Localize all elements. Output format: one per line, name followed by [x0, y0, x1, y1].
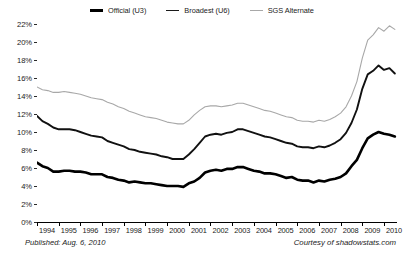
- x-axis-tick-label: 2000: [169, 226, 185, 235]
- y-axis-tick: 12%: [17, 109, 37, 119]
- x-axis-tick-mark: [102, 222, 103, 226]
- legend-item-sgs-alternate: SGS Alternate: [250, 6, 314, 15]
- legend-item-broadest-u6: Broadest (U6): [166, 6, 229, 15]
- series-line: [37, 132, 395, 187]
- x-axis-tick-label: 1995: [61, 226, 77, 235]
- x-axis-tick-label: 2003: [234, 226, 250, 235]
- y-axis-tick: 22%: [17, 19, 37, 29]
- y-axis-tick: 4%: [21, 181, 37, 191]
- y-axis-tick-label: 18%: [17, 56, 32, 65]
- x-axis-tick-mark: [145, 222, 146, 226]
- x-axis-tick-mark: [124, 222, 125, 226]
- footer: Published: Aug. 6, 2010 Courtesy of shad…: [0, 238, 404, 253]
- y-axis-tick-label: 0%: [21, 218, 32, 227]
- x-axis-tick-mark: [384, 222, 385, 226]
- x-axis-tick-label: 2008: [343, 226, 359, 235]
- y-axis-tick-label: 4%: [21, 182, 32, 191]
- x-axis-tick-label: 2001: [191, 226, 207, 235]
- x-axis-tick-label: 2010: [386, 226, 402, 235]
- y-axis-tick: 14%: [17, 91, 37, 101]
- x-axis-tick-mark: [167, 222, 168, 226]
- footer-published-date: Published: Aug. 6, 2010: [25, 238, 105, 247]
- x-axis-tick-label: 2006: [299, 226, 315, 235]
- footer-courtesy-credit: Courtesy of shadowstats.com: [294, 238, 396, 247]
- plot-area: [37, 24, 397, 222]
- x-axis-tick-mark: [210, 222, 211, 226]
- x-axis-tick-label: 2009: [364, 226, 380, 235]
- y-axis-tick: 0%: [21, 217, 37, 227]
- y-axis-tick-label: 14%: [17, 92, 32, 101]
- x-axis-tick-mark: [37, 222, 38, 226]
- x-axis-tick-label: 1999: [148, 226, 164, 235]
- legend-label-broadest-u6: Broadest (U6): [184, 6, 229, 15]
- x-axis-tick-mark: [341, 222, 342, 226]
- x-axis-tick-mark: [276, 222, 277, 226]
- y-axis-tick: 6%: [21, 163, 37, 173]
- y-axis-tick: 18%: [17, 55, 37, 65]
- x-axis-tick-mark: [59, 222, 60, 226]
- x-axis-tick-label: 1994: [39, 226, 55, 235]
- y-axis-tick: 20%: [17, 37, 37, 47]
- x-axis-tick-mark: [362, 222, 363, 226]
- x-axis-tick-label: 2002: [213, 226, 229, 235]
- chart-screenshot: Official (U3) Broadest (U6) SGS Alternat…: [0, 0, 404, 253]
- x-axis-tick-label: 2004: [256, 226, 272, 235]
- y-axis-tick: 16%: [17, 73, 37, 83]
- x-axis-tick-label: 2005: [278, 226, 294, 235]
- x-axis-tick-label: 2007: [321, 226, 337, 235]
- x-axis-tick-mark: [254, 222, 255, 226]
- y-axis-tick: 10%: [17, 127, 37, 137]
- x-axis-tick-mark: [319, 222, 320, 226]
- y-axis-tick-label: 20%: [17, 38, 32, 47]
- x-axis-tick-mark: [232, 222, 233, 226]
- series-line: [37, 26, 395, 124]
- x-axis-labels: 1994199519961997199819992000200120022003…: [37, 226, 397, 238]
- chart-lines: [37, 24, 397, 222]
- x-axis-tick-label: 1996: [82, 226, 98, 235]
- y-axis: 22%20%18%16%14%12%10%8%6%4%2%0%: [0, 24, 37, 222]
- line-swatch-u6-icon: [166, 10, 179, 12]
- x-axis-tick-mark: [297, 222, 298, 226]
- chart-legend: Official (U3) Broadest (U6) SGS Alternat…: [0, 6, 404, 15]
- y-axis-tick-label: 8%: [21, 146, 32, 155]
- x-axis-tick-mark: [189, 222, 190, 226]
- y-axis-tick-label: 6%: [21, 164, 32, 173]
- y-axis-tick-label: 10%: [17, 128, 32, 137]
- line-swatch-u3-icon: [90, 9, 103, 12]
- y-axis-tick: 2%: [21, 199, 37, 209]
- legend-item-official-u3: Official (U3): [90, 6, 146, 15]
- x-axis-tick-label: 1998: [126, 226, 142, 235]
- legend-label-official-u3: Official (U3): [108, 6, 146, 15]
- x-axis-tick-label: 1997: [104, 226, 120, 235]
- y-axis-tick: 8%: [21, 145, 37, 155]
- x-axis-tick-mark: [80, 222, 81, 226]
- y-axis-tick-label: 16%: [17, 74, 32, 83]
- y-axis-tick-label: 2%: [21, 200, 32, 209]
- y-axis-tick-label: 12%: [17, 110, 32, 119]
- line-swatch-sgs-icon: [250, 10, 263, 11]
- y-axis-tick-label: 22%: [17, 20, 32, 29]
- legend-label-sgs-alternate: SGS Alternate: [268, 6, 314, 15]
